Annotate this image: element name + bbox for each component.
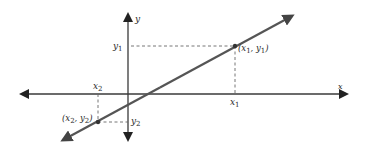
point-x1-y1 [233,44,237,48]
point-x2-y2 [96,120,100,124]
point-label-x2-y2: (x2, y2) [62,113,93,125]
y1-tick-label: y1 [112,41,123,53]
y-axis-label: y [134,14,141,24]
point-label-x1-y1: (x1, y1) [238,43,269,55]
coordinate-diagram: y x y1 x1 x2 y2 (x1, y1) (x2, y2) [0,0,366,151]
x-axis-label: x [338,82,343,91]
x1-tick-label: x1 [230,97,240,109]
x2-tick-label: x2 [93,81,103,93]
y2-tick-label: y2 [130,116,141,128]
